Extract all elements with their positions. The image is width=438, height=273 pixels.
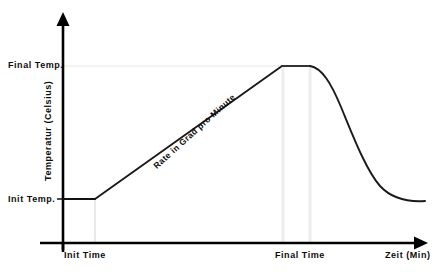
gridlines: [63, 66, 310, 243]
x-axis-arrow-icon: [414, 237, 428, 250]
y-tick-label-init-temp: Init Temp.: [8, 195, 55, 204]
plot-canvas: [0, 0, 438, 273]
x-tick-label-final-time: Final Time: [275, 251, 325, 260]
y-tick-label-final-temp: Final Temp.: [8, 61, 63, 70]
temperature-curve: [63, 66, 425, 201]
curve-cool-down: [310, 66, 425, 201]
axis-lines: [40, 12, 428, 250]
x-tick-label-init-time: Init Time: [64, 251, 106, 260]
y-axis-title: Temperatur (Celsius): [44, 81, 53, 181]
x-axis-title: Zeit (Min): [385, 251, 431, 260]
temperature-profile-figure: Final Temp. Init Temp. Temperatur (Celsi…: [0, 0, 438, 273]
y-axis-arrow-icon: [57, 12, 70, 26]
